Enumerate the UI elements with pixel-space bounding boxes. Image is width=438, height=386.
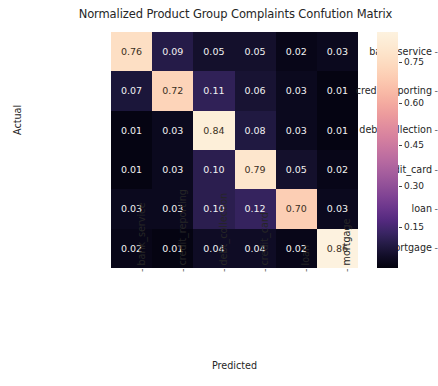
tick-mark: -	[434, 242, 438, 253]
tick-mark	[399, 186, 402, 187]
y-tick-label: loan	[412, 203, 433, 214]
heatmap-cell: 0.70	[276, 189, 317, 228]
tick-mark: -	[259, 269, 270, 272]
x-tick-bank-service: - bank_service	[136, 203, 147, 272]
colorbar-tick: 0.30	[399, 181, 424, 191]
cell-value: 0.03	[162, 165, 183, 175]
cell-value: 0.06	[245, 86, 266, 96]
cell-value: 0.10	[203, 165, 224, 175]
colorbar-tick-label: 0.60	[404, 98, 424, 108]
cell-value: 0.70	[286, 204, 307, 214]
heatmap-cell: 0.72	[152, 71, 193, 110]
heatmap-cell: 0.02	[276, 32, 317, 71]
x-tick-label: loan	[300, 245, 311, 266]
colorbar-tick-label: 0.45	[404, 140, 424, 150]
x-tick-label: credit_card	[259, 212, 270, 265]
colorbar-tick-label: 0.15	[404, 222, 424, 232]
tick-mark: -	[434, 124, 438, 135]
heatmap-grid: 0.760.090.050.050.020.030.070.720.110.06…	[111, 32, 358, 268]
cell-value: 0.84	[203, 126, 224, 136]
colorbar-tick-label: 0.75	[404, 57, 424, 67]
heatmap-cell: 0.79	[235, 150, 276, 189]
tick-mark: -	[434, 203, 438, 214]
heatmap-cell: 0.03	[152, 111, 193, 150]
heatmap-cell: 0.03	[152, 150, 193, 189]
heatmap-cell: 0.10	[193, 150, 234, 189]
heatmap-cell: 0.09	[152, 32, 193, 71]
x-tick-credit-card: - credit_card	[259, 212, 270, 272]
tick-mark: -	[218, 269, 229, 272]
heatmap-cell: 0.07	[111, 71, 152, 110]
colorbar-tick: 0.45	[399, 140, 424, 150]
x-tick-credit-reporting: - credit_reporting	[177, 189, 188, 272]
heatmap-cell: 0.05	[276, 150, 317, 189]
tick-mark	[399, 62, 402, 63]
heatmap-cell: 0.76	[111, 32, 152, 71]
heatmap-cell: 0.01	[111, 150, 152, 189]
page-title: Normalized Product Group Complaints Conf…	[0, 7, 438, 21]
cell-value: 0.01	[121, 165, 142, 175]
tick-mark: -	[434, 46, 438, 57]
cell-value: 0.11	[203, 86, 224, 96]
cell-value: 0.09	[162, 47, 183, 57]
y-axis-label: Actual	[12, 105, 23, 135]
cell-value: 0.79	[245, 165, 266, 175]
x-tick-debt-collection: - debt_collection	[218, 193, 229, 272]
tick-mark: -	[434, 85, 438, 96]
cell-value: 0.03	[286, 126, 307, 136]
cell-value: 0.05	[245, 47, 266, 57]
heatmap-cell: 0.03	[276, 111, 317, 150]
tick-mark: -	[434, 164, 438, 175]
cell-value: 0.03	[286, 86, 307, 96]
x-tick-label: debt_collection	[218, 193, 229, 266]
x-tick-label: credit_reporting	[177, 189, 188, 265]
tick-mark: -	[341, 269, 352, 272]
x-tick-loan: - loan	[300, 245, 311, 272]
confusion-matrix-figure: Normalized Product Group Complaints Conf…	[0, 0, 438, 386]
cell-value: 0.72	[162, 86, 183, 96]
tick-mark	[399, 145, 402, 146]
cell-value: 0.05	[286, 165, 307, 175]
cell-value: 0.08	[245, 126, 266, 136]
cell-value: 0.02	[286, 47, 307, 57]
tick-mark: -	[136, 269, 147, 272]
cell-value: 0.01	[121, 126, 142, 136]
colorbar-tick: 0.60	[399, 98, 424, 108]
cell-value: 0.03	[162, 126, 183, 136]
tick-mark	[399, 103, 402, 104]
colorbar-tick: 0.15	[399, 222, 424, 232]
colorbar-tick: 0.75	[399, 57, 424, 67]
heatmap-cell: 0.11	[193, 71, 234, 110]
heatmap-cell: 0.08	[235, 111, 276, 150]
heatmap-cell: 0.84	[193, 111, 234, 150]
cell-value: 0.05	[203, 47, 224, 57]
cell-value: 0.76	[121, 47, 142, 57]
colorbar-gradient	[377, 32, 398, 268]
colorbar: 0.750.600.450.300.15	[377, 32, 398, 268]
heatmap-cell: 0.03	[276, 71, 317, 110]
heatmap-cell: 0.06	[235, 71, 276, 110]
tick-mark: -	[300, 269, 311, 272]
colorbar-tick-label: 0.30	[404, 181, 424, 191]
heatmap-cell: 0.01	[111, 111, 152, 150]
cell-value: 0.07	[121, 86, 142, 96]
heatmap-cell: 0.05	[235, 32, 276, 71]
x-axis-label: Predicted	[111, 360, 358, 371]
x-tick-mortgage: - mortgage	[341, 219, 352, 272]
tick-mark	[399, 227, 402, 228]
heatmap-cell: 0.05	[193, 32, 234, 71]
x-tick-label: bank_service	[136, 203, 147, 266]
x-tick-label: mortgage	[341, 219, 352, 266]
tick-mark: -	[177, 269, 188, 272]
